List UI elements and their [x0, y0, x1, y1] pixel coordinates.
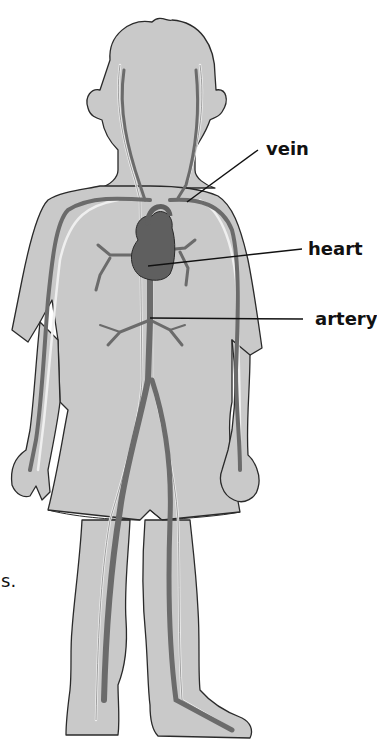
left-arm — [12, 322, 60, 500]
right-leg — [143, 520, 252, 738]
stray-text: s. — [1, 572, 16, 590]
artery-pointer — [150, 318, 303, 319]
vein-pointer — [187, 150, 258, 202]
label-heart: heart — [308, 240, 363, 258]
label-vein: vein — [266, 140, 309, 158]
label-artery: artery — [315, 310, 377, 328]
head — [87, 18, 226, 188]
